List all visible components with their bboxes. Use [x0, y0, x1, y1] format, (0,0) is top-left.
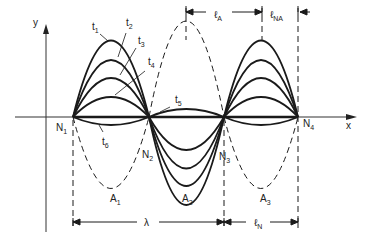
node-label-n2: N2 — [142, 149, 153, 162]
dashed-envelopes — [73, 21, 298, 189]
y-axis — [43, 24, 49, 232]
time-label-t3: t3 — [138, 35, 145, 48]
y-axis-label: y — [33, 17, 38, 28]
time-label-t1: t1 — [92, 21, 99, 34]
standing-wave-diagram: y x — [0, 0, 368, 242]
time-label-t6: t6 — [102, 136, 109, 149]
dimension-bottom — [73, 218, 298, 226]
non-antinode-length-label: ℓNA — [270, 9, 283, 22]
node-label-n3: N3 — [219, 151, 230, 164]
node-length-label: ℓN — [254, 217, 262, 230]
loop-2-curves — [149, 109, 224, 205]
loop-3-curves — [224, 41, 298, 126]
time-label-t2: t2 — [126, 17, 133, 30]
time-label-t5: t5 — [175, 94, 182, 107]
antinode-label-a1: A1 — [110, 193, 121, 206]
dimension-top — [186, 8, 310, 16]
wavelength-label: λ — [144, 217, 149, 228]
node-label-n1: N1 — [56, 122, 67, 135]
loop-1-curves — [73, 41, 149, 126]
antinode-label-a3: A3 — [260, 193, 271, 206]
time-label-t4: t4 — [148, 56, 155, 69]
antinode-length-label: ℓA — [214, 9, 222, 22]
node-label-n4: N4 — [303, 118, 314, 131]
x-axis-label: x — [346, 120, 351, 131]
